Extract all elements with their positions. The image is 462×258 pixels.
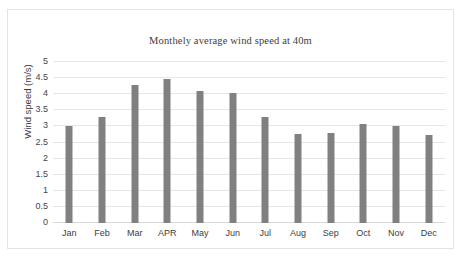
bar-slot: [412, 62, 445, 223]
x-tick-label: Oct: [356, 228, 370, 238]
bar-slot: [151, 62, 184, 223]
y-axis-title: Wind speed (m/s): [22, 47, 33, 157]
chart-container: Monthely average wind speed at 40m Wind …: [7, 9, 454, 249]
bar[interactable]: [229, 93, 236, 223]
bar-series: [53, 62, 445, 223]
bar[interactable]: [98, 117, 105, 223]
bar[interactable]: [294, 134, 301, 223]
bar-slot: [314, 62, 347, 223]
x-tick-label: May: [191, 228, 208, 238]
bar[interactable]: [196, 91, 203, 223]
x-tick-label: Jul: [260, 228, 272, 238]
y-tick-label: 0.5: [35, 201, 48, 211]
y-tick-label: 4: [43, 88, 48, 98]
bar-slot: [347, 62, 380, 223]
y-tick-label: 2: [43, 153, 48, 163]
x-tick-label: Dec: [421, 228, 437, 238]
bar-slot: [184, 62, 217, 223]
x-tick-label: Jan: [62, 228, 77, 238]
bar-slot: [380, 62, 413, 223]
bar-slot: [53, 62, 86, 223]
bar[interactable]: [425, 135, 432, 223]
bar[interactable]: [66, 126, 73, 223]
bar[interactable]: [360, 124, 367, 223]
y-tick-label: 4.5: [35, 72, 48, 82]
y-tick-label: 2.5: [35, 137, 48, 147]
bar[interactable]: [262, 117, 269, 223]
x-axis-labels: JanFebMarAPRMayJunJulAugSepOctNovDec: [53, 228, 445, 244]
x-tick-label: Sep: [323, 228, 339, 238]
y-tick-label: 3: [43, 120, 48, 130]
plot-area: 00.511.522.533.544.55: [53, 62, 445, 223]
x-tick-label: Feb: [94, 228, 110, 238]
x-tick-label: Mar: [127, 228, 143, 238]
y-tick-label: 3.5: [35, 104, 48, 114]
chart-title: Monthely average wind speed at 40m: [8, 35, 453, 46]
x-tick-label: Nov: [388, 228, 404, 238]
bar[interactable]: [392, 126, 399, 223]
bar-slot: [282, 62, 315, 223]
bar[interactable]: [131, 85, 138, 223]
y-tick-label: 0: [43, 217, 48, 227]
x-tick-label: Jun: [225, 228, 240, 238]
bar[interactable]: [327, 133, 334, 223]
y-tick-label: 1.5: [35, 169, 48, 179]
x-tick-label: APR: [158, 228, 177, 238]
bar[interactable]: [164, 79, 171, 223]
bar-slot: [249, 62, 282, 223]
y-tick-label: 1: [43, 185, 48, 195]
bar-slot: [118, 62, 151, 223]
bar-slot: [216, 62, 249, 223]
bar-slot: [86, 62, 119, 223]
y-tick-label: 5: [43, 56, 48, 66]
x-tick-label: Aug: [290, 228, 306, 238]
